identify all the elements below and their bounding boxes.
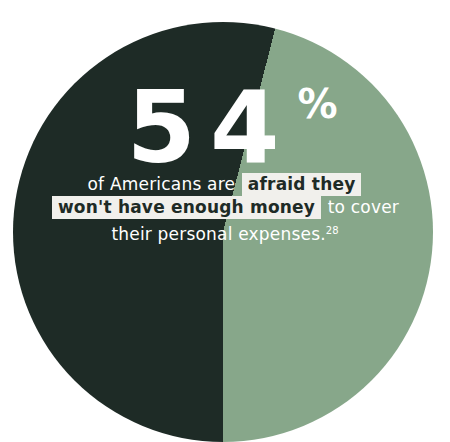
caption-line-2-regular: to cover [328,197,399,217]
footnote-ref: 28 [326,225,339,236]
percent-sign: % [298,81,338,127]
stat-value: 54% [0,78,450,178]
caption-line-1-regular: of Americans are [88,174,236,194]
highlight-afraid-they: afraid they [242,173,362,196]
caption: of Americans are afraid they won't have … [0,173,450,242]
highlight-wont-have-enough-money: won't have enough money [52,196,321,219]
stat-number: 54 [126,69,293,186]
caption-line-3-text: their personal expenses. [111,224,325,244]
caption-line-2: won't have enough money to cover [0,196,450,219]
caption-line-1: of Americans are afraid they [0,173,450,196]
caption-line-3: their personal expenses.28 [0,219,450,242]
